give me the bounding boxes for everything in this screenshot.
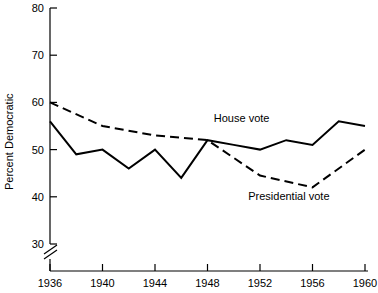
y-tick-label: 70 [32,49,44,61]
x-tick-label: 1956 [300,277,324,289]
line-chart: 304050607080 Percent Democratic 19361940… [0,0,378,293]
x-tick-label: 1960 [353,277,377,289]
x-axis: 1936194019441948195219561960 [38,264,377,289]
x-tick-label: 1952 [248,277,272,289]
y-axis-title: Percent Democratic [3,93,15,190]
y-tick-label: 60 [32,96,44,108]
series-label-presidential-vote: Presidential vote [248,190,329,202]
series-line-house-vote [50,121,365,178]
x-tick-label: 1944 [143,277,167,289]
y-axis-tick-labels: 304050607080 [32,2,44,250]
series-line-presidential-vote [50,102,365,187]
x-tick-label: 1940 [90,277,114,289]
y-axis-break-icon [44,245,57,259]
series-group [50,102,365,187]
y-tick-label: 50 [32,144,44,156]
x-axis-ticks [50,264,365,271]
chart-container: 304050607080 Percent Democratic 19361940… [0,0,378,293]
series-label-house-vote: House vote [214,112,270,124]
y-tick-label: 30 [32,238,44,250]
y-tick-label: 80 [32,2,44,14]
x-tick-label: 1936 [38,277,62,289]
x-axis-tick-labels: 1936194019441948195219561960 [38,277,377,289]
y-tick-label: 40 [32,191,44,203]
x-tick-label: 1948 [195,277,219,289]
y-axis: 304050607080 Percent Democratic [3,2,57,271]
